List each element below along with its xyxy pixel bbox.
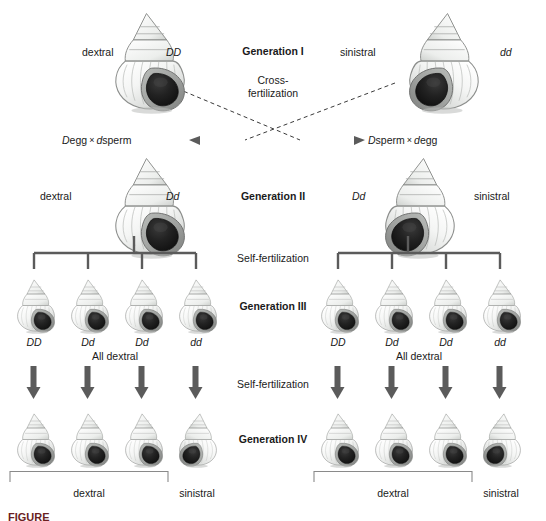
snail-gen4-right-4 bbox=[473, 412, 531, 468]
snail-gen4-left-4 bbox=[169, 412, 227, 468]
gen2-right-genotype: Dd bbox=[352, 190, 365, 203]
gen1-left-genotype: DD bbox=[166, 46, 181, 59]
snail-gen1-left bbox=[96, 10, 204, 114]
gamete-right-a-allele: D bbox=[368, 134, 376, 146]
gen1-right-genotype: dd bbox=[500, 46, 512, 59]
gen3-left-genotype-1: DD bbox=[26, 336, 41, 349]
snail-gen3-right-2 bbox=[365, 278, 423, 334]
snail-gen3-right-3 bbox=[419, 278, 477, 334]
gen4-left-bracket-label: dextral bbox=[73, 487, 105, 500]
gen3-right-genotype-3: Dd bbox=[439, 336, 452, 349]
gamete-left-b-type: sperm bbox=[102, 134, 131, 146]
figure-caption: FIGURE bbox=[8, 511, 50, 521]
gen2-left-phenotype: dextral bbox=[40, 190, 72, 203]
gen3-right-genotype-2: Dd bbox=[385, 336, 398, 349]
gen4-right-single-label: sinistral bbox=[483, 487, 519, 500]
snail-gen3-left-1 bbox=[7, 278, 65, 334]
snail-gen4-right-1 bbox=[311, 412, 369, 468]
gamete-right-a-type: sperm bbox=[376, 134, 405, 146]
gen3-left-genotype-4: dd bbox=[190, 336, 202, 349]
gamete-cross-right: Dsperm×degg bbox=[368, 134, 437, 146]
snail-gen4-left-1 bbox=[7, 412, 65, 468]
gamete-left-a-type: egg bbox=[70, 134, 88, 146]
generation-iii-label: Generation III bbox=[239, 300, 306, 313]
gen4-right-bracket-label: dextral bbox=[377, 487, 409, 500]
gamete-right-b-type: egg bbox=[420, 134, 438, 146]
self-fertilization-label-2: Self-fertilization bbox=[237, 378, 309, 391]
gen4-left-single-label: sinistral bbox=[179, 487, 215, 500]
snail-gen1-right bbox=[390, 10, 498, 114]
cross-fertilization-label-line2: fertilization bbox=[248, 87, 298, 100]
gamete-left-operator: × bbox=[87, 135, 96, 145]
snail-gen4-left-3 bbox=[115, 412, 173, 468]
gamete-left-a-allele: D bbox=[62, 134, 70, 146]
gen3-left-summary: All dextral bbox=[92, 350, 138, 363]
snail-gen3-left-4 bbox=[169, 278, 227, 334]
gen2-right-phenotype: sinistral bbox=[474, 190, 510, 203]
gen3-left-genotype-3: Dd bbox=[135, 336, 148, 349]
snail-gen4-right-3 bbox=[419, 412, 477, 468]
gen3-right-genotype-1: DD bbox=[330, 336, 345, 349]
snail-gen4-right-2 bbox=[365, 412, 423, 468]
cross-fertilization-label-line1: Cross- bbox=[258, 74, 289, 87]
snail-gen4-left-2 bbox=[61, 412, 119, 468]
snail-gen3-right-1 bbox=[311, 278, 369, 334]
gen2-left-genotype: Dd bbox=[166, 190, 179, 203]
snail-gen3-right-4 bbox=[473, 278, 531, 334]
generation-iv-label: Generation IV bbox=[239, 433, 307, 446]
snail-gen3-left-3 bbox=[115, 278, 173, 334]
self-fertilization-label-1: Self-fertilization bbox=[237, 252, 309, 265]
generation-i-label: Generation I bbox=[242, 45, 303, 58]
gen3-right-genotype-4: dd bbox=[494, 336, 506, 349]
gen1-left-phenotype: dextral bbox=[82, 46, 114, 59]
gen1-right-phenotype: sinistral bbox=[340, 46, 376, 59]
figure-canvas: dextral DD sinistral dd Generation I Cro… bbox=[0, 0, 546, 521]
gen3-right-summary: All dextral bbox=[396, 350, 442, 363]
gamete-right-operator: × bbox=[405, 135, 414, 145]
gen3-left-genotype-2: Dd bbox=[81, 336, 94, 349]
gamete-cross-left: Degg×dsperm bbox=[62, 134, 131, 146]
generation-ii-label: Generation II bbox=[241, 190, 305, 203]
snail-gen3-left-2 bbox=[61, 278, 119, 334]
